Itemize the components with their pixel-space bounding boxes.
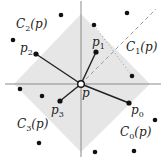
label-c2-rest: (p) <box>30 17 47 31</box>
label-p3-main: p <box>51 103 59 117</box>
label-p: p <box>82 87 90 99</box>
label-p3-sub: 3 <box>59 110 64 119</box>
point <box>93 150 98 155</box>
point <box>92 23 97 28</box>
label-c3-rest: (p) <box>31 117 48 131</box>
point <box>40 94 45 99</box>
label-p1-main: p <box>92 35 100 49</box>
label-p0: p0 <box>131 104 144 119</box>
point <box>125 11 130 16</box>
label-p1: p1 <box>92 36 105 51</box>
label-c1-main: C <box>126 40 135 54</box>
label-p2: p2 <box>20 42 33 57</box>
point <box>37 141 42 146</box>
point <box>132 149 137 154</box>
label-p3: p3 <box>51 104 64 119</box>
point <box>18 87 23 92</box>
point <box>130 74 135 79</box>
label-c0-main: C <box>120 125 129 139</box>
point <box>59 13 64 18</box>
point <box>11 38 16 43</box>
label-c2-main: C <box>16 17 25 31</box>
label-p1-sub: 1 <box>100 42 105 51</box>
label-p2-sub: 2 <box>28 48 33 57</box>
label-p0-main: p <box>131 103 139 117</box>
cone-diagram: C2(p) C1(p) C3(p) C0(p) p2 p1 p3 p0 p <box>0 0 164 165</box>
label-p0-sub: 0 <box>139 110 144 119</box>
label-c3-main: C <box>17 117 26 131</box>
point <box>153 118 158 123</box>
label-c1: C1(p) <box>126 41 157 56</box>
label-c0: C0(p) <box>120 126 151 141</box>
label-c2: C2(p) <box>16 18 47 33</box>
label-c0-rest: (p) <box>134 125 151 139</box>
label-p2-main: p <box>20 41 28 55</box>
label-c1-rest: (p) <box>140 40 157 54</box>
point-p2 <box>33 51 38 56</box>
label-c3: C3(p) <box>17 118 48 133</box>
